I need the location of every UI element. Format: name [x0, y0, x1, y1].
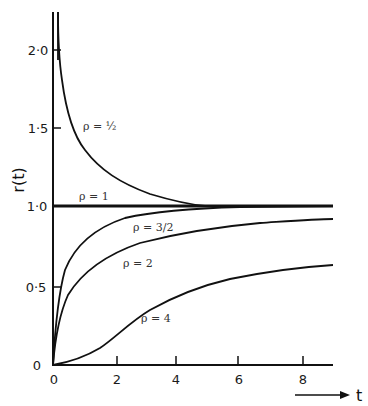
x-tick-4: 4	[172, 372, 180, 387]
curve-rho-4	[53, 265, 333, 365]
curve-labels: ρ = ½ ρ = 1 ρ = 3/2 ρ = 2 ρ = 4	[79, 120, 173, 325]
x-axis: 0 2 4 6 8 t	[50, 356, 362, 405]
label-rho-half: ρ = ½	[83, 120, 116, 133]
curve-rho-1-5	[53, 206, 333, 365]
x-tick-6: 6	[235, 372, 243, 387]
chart-canvas: 0 0·5 1·0 1·5 2·0 r(t) 0 2 4 6 8 t ρ = ½…	[0, 0, 368, 406]
y-tick-0: 0	[33, 358, 41, 373]
curves	[53, 12, 333, 365]
y-tick-2-0: 2·0	[28, 43, 49, 58]
y-tick-1-5: 1·5	[28, 121, 49, 136]
y-axis: 0 0·5 1·0 1·5 2·0 r(t)	[9, 12, 61, 373]
label-rho-1-5: ρ = 3/2	[133, 221, 173, 234]
label-rho-2: ρ = 2	[123, 257, 153, 270]
y-tick-0-5: 0·5	[26, 280, 47, 295]
x-tick-0: 0	[50, 372, 58, 387]
x-axis-title: t	[356, 386, 362, 405]
arrow-right-icon	[295, 391, 350, 399]
label-rho-4: ρ = 4	[141, 312, 171, 325]
label-rho-one: ρ = 1	[79, 190, 109, 203]
x-tick-8: 8	[299, 372, 307, 387]
y-axis-title: r(t)	[9, 167, 28, 192]
curve-rho-half	[58, 12, 333, 206]
curve-rho-2	[53, 219, 333, 365]
y-tick-1-0: 1·0	[27, 199, 48, 214]
x-tick-2: 2	[113, 372, 121, 387]
